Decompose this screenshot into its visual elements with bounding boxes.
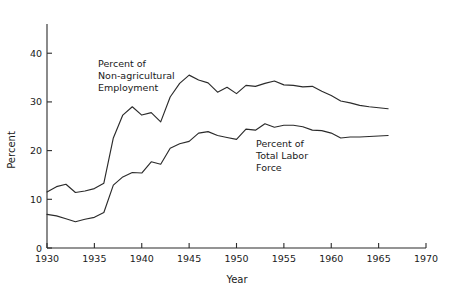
x-tick-label: 1950 bbox=[224, 253, 248, 264]
x-tick-label: 1960 bbox=[319, 253, 343, 264]
x-tick-label: 1930 bbox=[35, 253, 59, 264]
x-tick-label: 1965 bbox=[367, 253, 391, 264]
series-group bbox=[47, 75, 388, 222]
y-tick-label: 0 bbox=[36, 243, 42, 254]
y-tick-group: 010203040 bbox=[30, 48, 52, 254]
annotation-lower-line1: Percent of bbox=[256, 138, 305, 149]
x-tick-label: 1955 bbox=[272, 253, 296, 264]
x-tick-label: 1940 bbox=[130, 253, 154, 264]
x-tick-group: 193019351940194519501955196019651970 bbox=[35, 243, 438, 264]
annotation-lower-line3: Force bbox=[256, 162, 282, 173]
annotation-upper-line2: Non-agricultural bbox=[98, 70, 175, 81]
y-axis-title: Percent bbox=[6, 131, 17, 169]
x-tick-label: 1970 bbox=[414, 253, 438, 264]
chart-figure: 010203040 193019351940194519501955196019… bbox=[0, 0, 450, 290]
annotation-upper-line1: Percent of bbox=[98, 58, 147, 69]
x-axis-title: Year bbox=[225, 274, 248, 285]
y-tick-label: 40 bbox=[30, 48, 42, 59]
y-tick-label: 10 bbox=[30, 194, 42, 205]
annotation-non-agricultural-employment: Percent of Non-agricultural Employment bbox=[98, 58, 175, 93]
line-chart: 010203040 193019351940194519501955196019… bbox=[0, 0, 450, 290]
x-tick-label: 1935 bbox=[82, 253, 106, 264]
annotation-lower-line2: Total Labor bbox=[255, 150, 308, 161]
annotation-upper-line3: Employment bbox=[98, 82, 158, 93]
y-tick-label: 20 bbox=[30, 145, 42, 156]
annotation-total-labor-force: Percent of Total Labor Force bbox=[255, 138, 308, 173]
x-tick-label: 1945 bbox=[177, 253, 201, 264]
series-line-total-labor-force bbox=[47, 124, 388, 222]
y-tick-label: 30 bbox=[30, 96, 42, 107]
